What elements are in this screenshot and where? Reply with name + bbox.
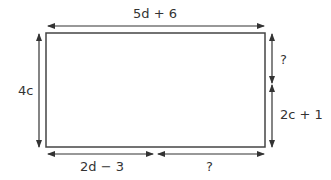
rectangle-diagram [0, 0, 331, 180]
left-label: 4c [18, 84, 33, 97]
bottom-left-label: 2d − 3 [80, 160, 124, 173]
right-top-label: ? [280, 53, 287, 66]
bottom-right-label: ? [206, 160, 213, 173]
top-label: 5d + 6 [133, 7, 177, 20]
rectangle [46, 33, 265, 147]
right-bottom-label: 2c + 1 [280, 108, 323, 121]
